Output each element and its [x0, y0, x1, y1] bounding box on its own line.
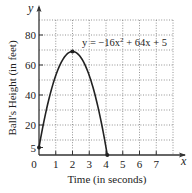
equation-prefix: y =: [82, 37, 98, 48]
y-axis-name: y: [27, 1, 34, 15]
x-tick-label: 4: [103, 158, 109, 170]
x-tick-label: 5: [120, 158, 126, 170]
y-tick-label: 80: [25, 29, 37, 41]
y-tick-label: 5: [31, 142, 37, 154]
x-axis-label: Time (in seconds): [67, 173, 146, 186]
point-vertex: [71, 50, 75, 54]
y-tick-label: 40: [25, 89, 37, 101]
y-tick-label: 60: [25, 59, 37, 71]
parabola-series-line: [39, 52, 107, 156]
equation-annotation: y = −16x2 + 64x + 5: [82, 36, 167, 48]
y-axis-label: Ball's Height (in feet): [6, 40, 19, 135]
x-tick-label: 2: [70, 158, 76, 170]
x-tick-label: 6: [137, 158, 143, 170]
chart: 01234567520406080 x y Time (in seconds) …: [0, 0, 192, 193]
point-landing: [105, 153, 109, 157]
x-tick-label: 3: [87, 158, 93, 170]
x-axis-name: x: [180, 154, 187, 168]
point-start: [37, 146, 41, 150]
x-tick-label: 0: [31, 158, 37, 170]
equation-rest: + 64x + 5: [124, 37, 167, 48]
equation-term1: −16x: [98, 37, 120, 48]
y-tick-label: 20: [25, 119, 37, 131]
x-tick-label: 1: [53, 158, 59, 170]
axes: [37, 5, 187, 158]
x-tick-label: 7: [154, 158, 160, 170]
